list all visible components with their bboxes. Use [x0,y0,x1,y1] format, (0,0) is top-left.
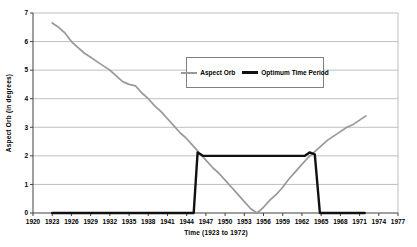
x-tick-label: 1932 [103,218,118,225]
legend-label-optimum-time-period: Optimum Time Period [261,69,328,76]
y-tick-label: 7 [24,9,28,16]
x-tick-label: 1935 [122,218,137,225]
y-tick-label: 2 [24,152,28,159]
y-tick-label: 0 [24,209,28,216]
x-tick-label: 1938 [141,218,156,225]
x-axis-title: Time (1923 to 1972) [184,229,248,236]
x-tick-label: 1941 [160,218,175,225]
legend-label-aspect-orb: Aspect Orb [200,69,235,76]
x-tick-label: 1920 [26,218,41,225]
x-tick-label: 1962 [295,218,310,225]
aspect-orb-line-swatch-icon [181,72,197,74]
optimum-time-period-line-swatch-icon [242,71,258,74]
y-tick-label: 5 [24,66,28,73]
x-tick-label: 1926 [64,218,79,225]
x-tick-label: 1959 [276,218,291,225]
aspect-orb-chart: 0123456719201923192619291932193519381941… [0,0,417,247]
chart-legend: Aspect Orb Optimum Time Period [186,57,324,88]
x-tick-label: 1971 [352,218,367,225]
x-tick-label: 1929 [83,218,98,225]
x-tick-label: 1956 [256,218,271,225]
x-tick-label: 1968 [333,218,348,225]
x-tick-label: 1965 [314,218,329,225]
x-tick-label: 1950 [218,218,233,225]
x-tick-label: 1947 [199,218,214,225]
legend-entry-aspect-orb: Aspect Orb [181,69,235,76]
x-tick-label: 1977 [391,218,406,225]
y-tick-label: 6 [24,38,28,45]
x-tick-label: 1923 [45,218,60,225]
x-tick-label: 1974 [372,218,387,225]
series-optimum-time-period [52,152,365,213]
y-tick-label: 3 [24,124,28,131]
chart-svg: 0123456719201923192619291932193519381941… [0,0,417,247]
y-axis-title: Aspect Orb (in degrees) [5,74,12,152]
y-tick-label: 1 [24,181,28,188]
legend-entry-optimum-time-period: Optimum Time Period [242,69,328,76]
y-tick-label: 4 [24,95,28,102]
x-tick-label: 1953 [237,218,252,225]
x-tick-label: 1944 [179,218,194,225]
